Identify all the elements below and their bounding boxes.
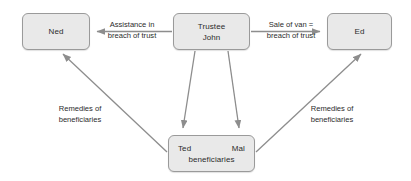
edge-label-remedies-left-line2: beneficiaries xyxy=(44,114,116,125)
arrow-trustee-to-ted xyxy=(183,51,195,128)
edge-label-remedies-right: Remedies of beneficiaries xyxy=(296,103,368,125)
edge-label-sale-line1: Sale of van = xyxy=(255,19,327,30)
node-trustee-john[interactable]: Trustee John xyxy=(173,13,250,50)
edge-label-assistance-in-breach-of-trust: Assistance in breach of trust xyxy=(96,19,168,41)
node-beneficiaries[interactable]: Ted Mal beneficiaries xyxy=(168,135,255,172)
beneficiary-name-ted: Ted xyxy=(178,143,191,154)
arrow-trustee-to-mal xyxy=(228,51,239,128)
edge-label-sale-of-van: Sale of van = breach of trust xyxy=(255,19,327,41)
beneficiaries-role-label: beneficiaries xyxy=(188,154,234,165)
edge-label-remedies-right-line1: Remedies of xyxy=(296,103,368,114)
beneficiary-name-mal: Mal xyxy=(232,143,245,154)
node-ned-label: Ned xyxy=(49,26,64,37)
diagram-canvas: Ned Trustee John Ed Ted Mal beneficiarie… xyxy=(0,0,411,181)
edge-label-remedies-left-line1: Remedies of xyxy=(44,103,116,114)
node-ed-label: Ed xyxy=(355,26,365,37)
edge-label-assistance-line1: Assistance in xyxy=(96,19,168,30)
edge-label-remedies-right-line2: beneficiaries xyxy=(296,114,368,125)
edge-label-assistance-line2: breach of trust xyxy=(96,30,168,41)
beneficiary-names: Ted Mal xyxy=(169,143,254,154)
node-ed[interactable]: Ed xyxy=(327,13,392,50)
node-trustee-label-line2: John xyxy=(203,32,221,43)
edge-label-sale-line2: breach of trust xyxy=(255,30,327,41)
node-trustee-label-line1: Trustee xyxy=(198,21,226,32)
edge-label-remedies-left: Remedies of beneficiaries xyxy=(44,103,116,125)
node-ned[interactable]: Ned xyxy=(22,13,90,50)
